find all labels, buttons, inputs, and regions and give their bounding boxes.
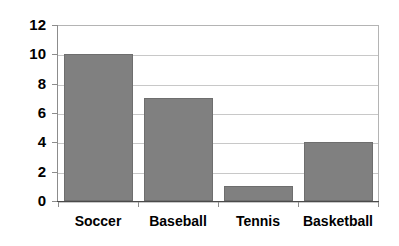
bars-layer xyxy=(58,25,378,201)
x-axis-tick-mark xyxy=(218,202,219,207)
x-axis-tick-mark xyxy=(138,202,139,207)
bar xyxy=(224,186,293,201)
y-axis-tick-label: 6 xyxy=(14,105,46,120)
y-axis-tick-label: 12 xyxy=(14,17,46,32)
bar xyxy=(64,54,133,201)
x-axis-tick-mark-origin xyxy=(58,202,59,207)
x-axis-category-label: Baseball xyxy=(138,211,218,231)
x-axis-category-label: Tennis xyxy=(218,211,298,231)
x-axis-category-label: Soccer xyxy=(58,211,138,231)
y-axis-tick-label: 8 xyxy=(14,76,46,91)
y-axis-tick-label: 2 xyxy=(14,164,46,179)
y-axis-tick-label: 4 xyxy=(14,134,46,149)
y-axis-tick-label: 0 xyxy=(14,193,46,208)
bar-chart: 024681012 SoccerBaseballTennisBasketball xyxy=(0,0,399,246)
x-axis-category-label: Basketball xyxy=(298,211,378,231)
y-axis-tick-labels: 024681012 xyxy=(14,25,46,201)
bar xyxy=(304,142,373,201)
bar xyxy=(144,98,213,201)
x-axis-category-labels: SoccerBaseballTennisBasketball xyxy=(58,211,378,237)
x-axis-tick-mark xyxy=(378,202,379,207)
x-axis-tick-mark xyxy=(298,202,299,207)
y-axis-tick-label: 10 xyxy=(14,46,46,61)
